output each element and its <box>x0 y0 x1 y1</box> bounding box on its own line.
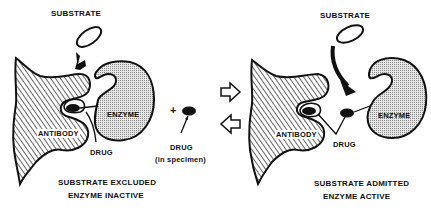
right-antibody-label: ANTIBODY <box>275 130 318 139</box>
free-drug-icon <box>182 107 196 116</box>
blocked-arrow-icon <box>75 52 86 70</box>
left-panel <box>13 23 154 184</box>
left-caption-line2: ENZYME INACTIVE <box>68 191 144 200</box>
bound-drug-icon <box>300 103 321 117</box>
right-enzyme-label: ENZYME <box>378 111 410 120</box>
plus-sign: + <box>170 104 177 116</box>
left-substrate-label: SUBSTRATE <box>51 9 101 18</box>
antibody-icon <box>13 58 90 184</box>
right-substrate-label: SUBSTRATE <box>320 11 370 20</box>
admitted-arrow-icon <box>333 46 356 96</box>
middle-section <box>181 83 240 133</box>
enzyme-immunoassay-diagram: SUBSTRATE ENZYME ANTIBODY DRUG SUBSTRATE… <box>0 0 431 210</box>
right-drug-label: DRUG <box>333 140 356 149</box>
enzyme-linked-drug-icon <box>340 109 354 118</box>
left-enzyme-label: ENZYME <box>107 110 139 119</box>
backward-arrow-icon <box>221 115 240 133</box>
middle-drug-label: DRUG <box>170 143 193 152</box>
enzyme-icon <box>95 61 154 140</box>
left-caption-line1: SUBSTRATE EXCLUDED <box>58 178 156 187</box>
right-panel <box>249 22 426 184</box>
substrate-icon <box>334 22 365 47</box>
in-specimen-label: (in specimen) <box>155 155 206 164</box>
left-antibody-label: ANTIBODY <box>37 129 80 138</box>
right-caption-line2: ENZYME ACTIVE <box>323 192 390 201</box>
left-drug-label: DRUG <box>90 148 113 157</box>
enzyme-icon <box>367 58 426 138</box>
forward-arrow-icon <box>221 83 240 101</box>
bound-drug-icon <box>64 99 85 113</box>
right-caption-line1: SUBSTRATE ADMITTED <box>314 179 409 188</box>
substrate-icon <box>74 23 105 51</box>
antibody-icon <box>249 60 328 184</box>
